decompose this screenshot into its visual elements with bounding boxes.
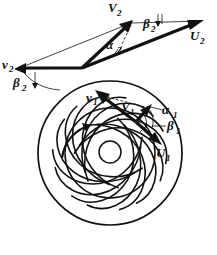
label-alpha2: α [106,37,114,52]
label-v2: v [2,57,8,72]
vector-v2 [14,63,82,74]
label-beta2-right-subscript: 2 [150,24,156,34]
label-beta2-right: β [142,16,150,31]
outlet-velocity-triangle [14,14,204,90]
label-alpha1: α [162,102,170,117]
label-V2-subscript: 2 [116,8,122,18]
label-V1-subscript: 1 [130,107,135,117]
outlet-parallelogram-edge-upper [17,23,131,69]
label-U2: U [190,28,200,43]
vector-v1 [95,90,136,122]
label-beta2-left: β [12,75,20,90]
label-alpha2-subscript: 2 [116,45,122,55]
label-beta2-left-subscript: 2 [21,83,27,93]
label-v2-subscript: 2 [8,64,14,74]
label-U2-subscript: 2 [199,36,205,46]
label-v1: v [86,90,92,105]
impeller-hub-circle [99,141,121,163]
angle-marks-beta2-right [155,14,162,27]
velocity-triangle-diagram: V 2 U 2 β 2 α 2 v 2 β 2 v 1 V 1 α 1 β 1 … [0,0,217,255]
label-beta1-subscript: 1 [176,126,181,136]
label-U1-subscript: 1 [166,153,171,163]
blade [82,103,163,181]
label-alpha1-subscript: 1 [173,110,178,120]
diagram-canvas: V 2 U 2 β 2 α 2 v 2 β 2 v 1 V 1 α 1 β 1 … [0,0,217,255]
label-U1: U [156,145,166,160]
label-v1-subscript: 1 [93,97,98,107]
label-beta1: β [166,118,174,133]
angle-marks-beta2-left [22,70,60,90]
